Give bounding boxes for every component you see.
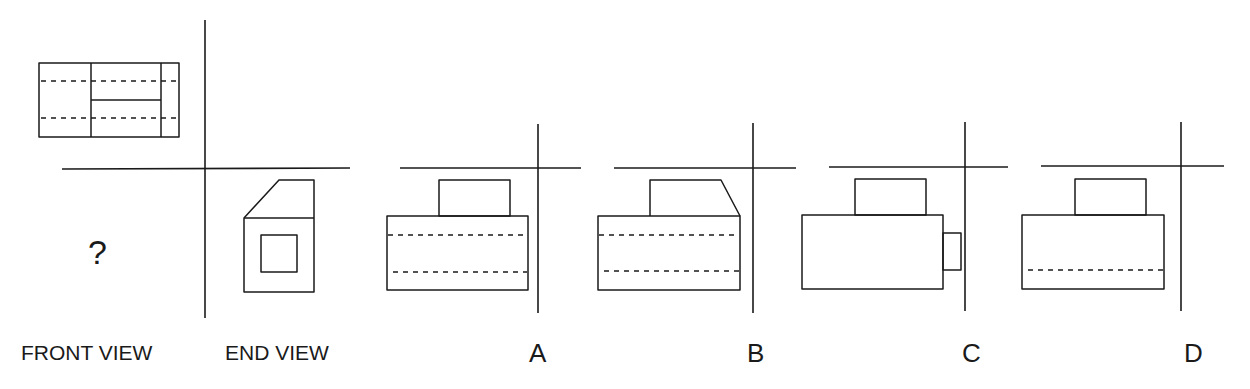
option-a-drawing[interactable]	[387, 124, 581, 313]
option-a-main-body	[387, 216, 528, 290]
front-view-label: FRONT VIEW	[21, 341, 152, 365]
end-view-outline	[244, 180, 314, 292]
horizontal-fold-line	[62, 168, 350, 169]
option-b-main-body	[598, 216, 740, 290]
option-b-chamfered-block	[650, 180, 740, 216]
option-a-label[interactable]: A	[529, 338, 546, 369]
end-view-inner-square	[261, 235, 297, 272]
option-d-drawing[interactable]	[1022, 122, 1224, 311]
option-b-label[interactable]: B	[747, 338, 764, 369]
end-view-label: END VIEW	[225, 341, 329, 365]
option-b-drawing[interactable]	[598, 123, 796, 313]
option-d-raised-block	[1075, 179, 1146, 215]
end-view	[244, 180, 314, 292]
option-c-raised-block	[855, 179, 926, 215]
option-c-main-body	[802, 215, 943, 289]
option-d-main-body	[1022, 215, 1164, 289]
option-a-raised-block	[439, 180, 510, 216]
problem-axes	[62, 20, 350, 318]
orthographic-diagram	[0, 0, 1250, 389]
option-c-side-tab	[943, 233, 961, 270]
option-d-label[interactable]: D	[1184, 338, 1203, 369]
top-view	[39, 63, 179, 137]
unknown-front-view-question-mark: ?	[88, 233, 107, 272]
option-c-drawing[interactable]	[802, 122, 1008, 311]
option-c-label[interactable]: C	[962, 338, 981, 369]
